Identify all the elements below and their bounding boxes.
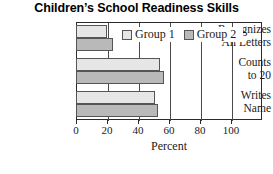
legend-entry-group-1: Group 1 xyxy=(122,27,175,42)
category-label-writes-name: WritesName xyxy=(199,89,273,115)
bar-group-1-writes-name xyxy=(76,91,155,104)
x-tick-label-40: 40 xyxy=(123,124,153,136)
bar-group-1-recognizes-all-letters xyxy=(76,25,107,38)
x-tick-label-20: 20 xyxy=(92,124,122,136)
chart-title: Children’s School Readiness Skills xyxy=(0,1,273,15)
category-label-line-1: Writes xyxy=(199,89,271,102)
legend-entry-group-2: Group 2 xyxy=(184,27,237,42)
x-tick-label-0: 0 xyxy=(61,124,91,136)
chart-legend: Group 1 Group 2 xyxy=(120,27,243,42)
chart-container: Children’s School Readiness Skills Recog… xyxy=(0,0,273,174)
bar-group-1-counts-to-20 xyxy=(76,58,160,71)
bar-group-2-counts-to-20 xyxy=(76,71,164,84)
category-label-line-1: Counts xyxy=(199,56,271,69)
category-label-line-2: to 20 xyxy=(199,69,271,82)
legend-label-group-2: Group 2 xyxy=(197,27,237,42)
bar-group-2-recognizes-all-letters xyxy=(76,38,113,51)
light-gray-swatch-icon xyxy=(122,30,132,40)
x-axis-title: Percent xyxy=(76,139,262,154)
legend-label-group-1: Group 1 xyxy=(135,27,175,42)
x-tick-label-60: 60 xyxy=(154,124,184,136)
category-label-counts-to-20: Countsto 20 xyxy=(199,56,273,82)
category-label-line-2: Name xyxy=(199,102,271,115)
x-tick-label-80: 80 xyxy=(185,124,215,136)
dark-gray-swatch-icon xyxy=(184,30,194,40)
bar-group-2-writes-name xyxy=(76,104,158,117)
x-tick-label-100: 100 xyxy=(216,124,246,136)
